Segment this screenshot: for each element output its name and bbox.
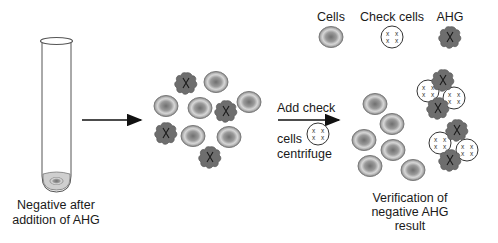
step-line3: centrifuge: [277, 147, 332, 161]
step-line1: Add check: [277, 101, 336, 115]
step-line2: cells: [277, 132, 302, 146]
ahg-molecule-icon: [427, 98, 449, 120]
red-cell-icon: [380, 114, 404, 135]
red-cell-icon: [217, 127, 241, 148]
legend-cell-icon: [319, 27, 343, 48]
legend-check-cells-label: Check cells: [360, 10, 424, 24]
legend-check-cell-icon: [381, 26, 403, 48]
ahg-molecule-icon: [439, 150, 461, 172]
red-cell-icon: [204, 72, 228, 93]
red-cell-icon: [358, 156, 382, 177]
legend-cells-label: Cells: [317, 10, 345, 24]
red-cell-icon: [363, 94, 387, 115]
tube-caption-line1: Negative after: [17, 198, 95, 212]
legend-ahg-label: AHG: [436, 10, 463, 24]
ahg-molecule-icon: [215, 101, 237, 123]
ahg-molecule-icon: [199, 147, 221, 169]
test-tube-icon: [41, 38, 73, 193]
cells-with-ahg-cluster: [154, 72, 261, 169]
result-caption-line2: negative AHG: [371, 205, 448, 219]
result-caption-line1: Verification of: [372, 191, 448, 205]
check-cell-icon: [307, 123, 329, 145]
agglutinated-check-cells-cluster: [352, 70, 478, 181]
red-cell-icon: [401, 160, 425, 181]
ahg-molecule-icon: [446, 120, 468, 142]
red-cell-icon: [154, 96, 178, 117]
ahg-molecule-icon: [432, 70, 454, 92]
red-cell-icon: [188, 98, 212, 119]
red-cell-icon: [381, 140, 405, 161]
ahg-check-cell-diagram: x x x x Negative after addition of AHG C…: [0, 0, 498, 243]
ahg-molecule-icon: [175, 73, 197, 95]
red-cell-icon: [237, 92, 261, 113]
tube-caption-line2: addition of AHG: [12, 213, 100, 227]
legend-ahg-icon: [439, 27, 461, 49]
result-caption-line3: result: [395, 219, 426, 233]
red-cell-icon: [352, 130, 376, 151]
red-cell-icon: [181, 126, 205, 147]
ahg-molecule-icon: [155, 123, 177, 145]
